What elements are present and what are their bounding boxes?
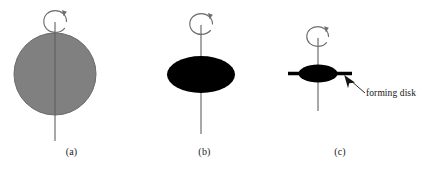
pointer-head <box>344 75 355 88</box>
rotation-arrow-icon-a <box>44 9 68 32</box>
panel-label-c: (c) <box>260 146 420 157</box>
cloud-ellipse-b <box>167 56 235 93</box>
panel-label-a: (a) <box>0 146 143 157</box>
cloud-ellipse-c <box>299 65 338 83</box>
panel-c-graphic <box>270 0 430 170</box>
panel-a: (a) <box>0 0 143 170</box>
panel-b-graphic <box>143 0 270 170</box>
forming-disk-pointer-icon <box>344 75 365 93</box>
panel-label-b: (b) <box>141 146 268 157</box>
forming-disk-label: forming disk <box>366 88 416 98</box>
panel-a-graphic <box>0 0 143 170</box>
panel-b: (b) <box>143 0 270 170</box>
panel-c: (c) forming disk <box>270 0 430 170</box>
figure-rotating-cloud-collapse: (a) (b) <box>0 0 430 170</box>
rotation-arrow-icon-b <box>190 12 214 34</box>
